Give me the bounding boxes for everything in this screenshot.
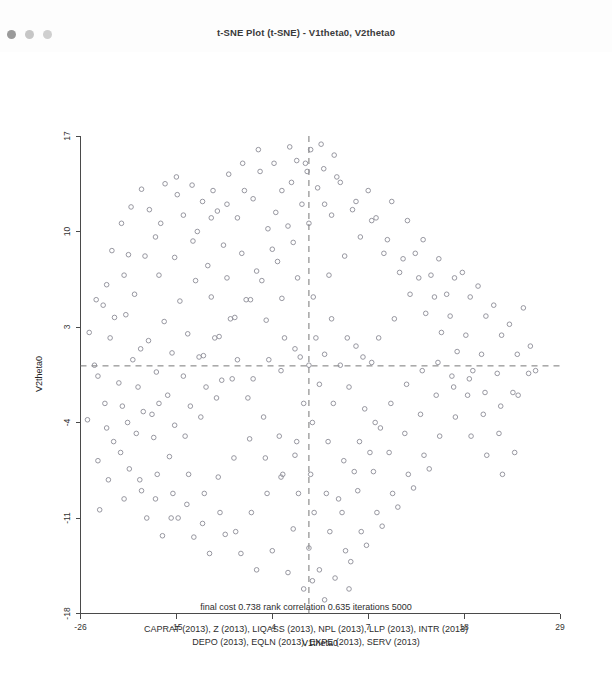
scatter-point	[437, 256, 442, 261]
scatter-point	[265, 491, 270, 496]
scatter-point	[225, 202, 230, 207]
scatter-point	[374, 216, 379, 221]
scatter-point	[202, 491, 207, 496]
scatter-point	[322, 202, 327, 207]
stats-line: final cost 0.738 rank correlation 0.635 …	[200, 602, 412, 612]
scatter-point	[336, 497, 341, 502]
scatter-point	[239, 551, 244, 556]
scatter-point	[87, 330, 92, 335]
scatter-point	[108, 336, 113, 341]
scatter-point	[396, 505, 401, 510]
scatter-point	[307, 363, 312, 368]
scatter-point	[291, 527, 296, 532]
scatter-point	[348, 559, 353, 564]
scatter-point	[484, 453, 489, 458]
scatter-point	[195, 229, 200, 234]
scatter-point	[170, 351, 175, 356]
scatter-point	[286, 570, 291, 575]
scatter-point	[258, 169, 263, 174]
scatter-point	[468, 295, 473, 300]
y-axis-title: V2theta0	[34, 356, 44, 392]
scatter-point	[209, 216, 214, 221]
scatter-point	[403, 431, 408, 436]
y-tick-label: 17	[62, 131, 72, 141]
scatter-point	[497, 431, 502, 436]
scatter-point	[439, 330, 444, 335]
scatter-point	[240, 161, 245, 166]
scatter-point	[150, 412, 155, 417]
scatter-point	[277, 434, 282, 439]
plot-card: -26-15-471829 -18-11-431017 V1theta0 V2t…	[0, 52, 612, 676]
scatter-point	[147, 207, 152, 212]
scatter-point	[158, 221, 163, 226]
scatter-point	[125, 420, 130, 425]
scatter-point	[279, 368, 284, 373]
scatter-point	[151, 435, 156, 440]
scatter-point	[94, 297, 99, 302]
scatter-point	[321, 166, 326, 171]
scatter-point	[408, 292, 413, 297]
scatter-point	[390, 491, 395, 496]
scatter-point	[155, 472, 160, 477]
scatter-point	[144, 516, 149, 521]
scatter-point	[361, 355, 366, 360]
scatter-point	[434, 393, 439, 398]
scatter-point	[512, 450, 517, 455]
scatter-point	[526, 371, 531, 376]
scatter-point	[233, 529, 238, 534]
scatter-point	[358, 235, 363, 240]
scatter-point	[380, 524, 385, 529]
scatter-point	[235, 357, 240, 362]
scatter-point	[533, 368, 538, 373]
scatter-point	[340, 510, 345, 515]
scatter-point	[270, 247, 275, 252]
scatter-point	[85, 417, 90, 422]
variables-line-2: DEPO (2013), EQLN (2013), EXPE (2013), S…	[192, 637, 419, 647]
scatter-point	[205, 263, 210, 268]
scatter-point	[230, 377, 235, 382]
scatter-point	[263, 456, 268, 461]
scatter-point	[101, 303, 106, 308]
scatter-point	[275, 259, 280, 264]
tsne-scatter-figure: -26-15-471829 -18-11-431017 V1theta0 V2t…	[0, 52, 612, 676]
scatter-point	[176, 516, 181, 521]
scatter-point	[183, 434, 188, 439]
scatter-point	[119, 221, 124, 226]
scatter-point	[143, 254, 148, 259]
scatter-point	[112, 315, 117, 320]
scatter-point	[378, 426, 383, 431]
scatter-point	[186, 472, 191, 477]
scatter-point	[354, 199, 359, 204]
scatter-point	[436, 360, 441, 365]
scatter-point	[261, 415, 266, 420]
scatter-point	[515, 352, 520, 357]
scatter-point	[392, 317, 397, 322]
scatter-point	[174, 175, 179, 180]
scatter-point	[136, 385, 141, 390]
scatter-point	[455, 349, 460, 354]
scatter-point	[317, 568, 322, 573]
scatter-point	[251, 196, 256, 201]
scatter-point	[296, 491, 301, 496]
scatter-point	[146, 338, 151, 343]
scatter-point	[264, 318, 269, 323]
scatter-point	[162, 319, 167, 324]
scatter-point	[254, 269, 259, 274]
y-tick-label: -4	[62, 418, 72, 426]
scatter-point	[479, 352, 484, 357]
window-title-bar: t-SNE Plot (t-SNE) - V1theta0, V2theta0	[0, 0, 612, 52]
plot-axes	[80, 136, 560, 614]
scatter-point	[171, 491, 176, 496]
scatter-point	[138, 347, 143, 352]
scatter-point	[131, 357, 136, 362]
scatter-point	[175, 192, 180, 197]
scatter-point	[329, 213, 334, 218]
scatter-point	[127, 467, 132, 472]
scatter-point	[312, 510, 317, 515]
scatter-point	[104, 282, 109, 287]
scatter-point	[280, 188, 285, 193]
scatter-point	[432, 295, 437, 300]
scatter-point	[420, 368, 425, 373]
scatter-point	[197, 355, 202, 360]
scatter-point	[226, 172, 231, 177]
